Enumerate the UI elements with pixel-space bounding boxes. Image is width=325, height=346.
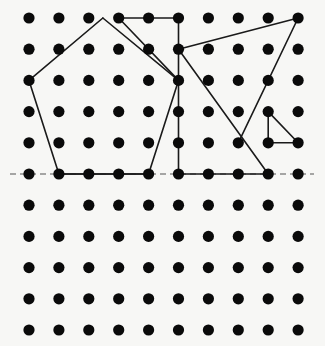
grid-dot	[23, 324, 34, 335]
grid-dot	[83, 106, 94, 117]
grid-dot	[113, 106, 124, 117]
grid-dot	[83, 262, 94, 273]
grid-dot	[203, 293, 214, 304]
grid-dot	[263, 75, 274, 86]
small-right-triangle-segment	[268, 112, 298, 143]
grid-dot	[293, 231, 304, 242]
grid-dot	[233, 75, 244, 86]
grid-dot	[293, 293, 304, 304]
grid-dot	[293, 137, 304, 148]
grid-dot	[113, 168, 124, 179]
grid-dot	[293, 262, 304, 273]
grid-dot	[53, 262, 64, 273]
grid-dot	[53, 200, 64, 211]
grid-dot	[263, 168, 274, 179]
grid-dot	[83, 231, 94, 242]
grid-dot	[263, 12, 274, 23]
grid-dot	[143, 324, 154, 335]
grid-dot	[23, 44, 34, 55]
grid-dot	[203, 200, 214, 211]
grid-dot	[83, 75, 94, 86]
grid-dot	[173, 137, 184, 148]
grid-dot	[83, 12, 94, 23]
grid-dot	[143, 200, 154, 211]
grid-dot	[143, 44, 154, 55]
dot-grid-diagram	[0, 0, 325, 346]
grid-dot	[233, 324, 244, 335]
grid-dot	[23, 231, 34, 242]
grid-dot	[263, 44, 274, 55]
grid-dot	[113, 44, 124, 55]
grid-dot	[233, 200, 244, 211]
grid-dot	[203, 262, 214, 273]
grid-dot	[293, 200, 304, 211]
grid-dot	[263, 293, 274, 304]
grid-dot	[143, 168, 154, 179]
grid-dot	[53, 137, 64, 148]
grid-dot	[173, 200, 184, 211]
grid-dot	[143, 106, 154, 117]
grid-dot	[143, 293, 154, 304]
grid-dot	[113, 137, 124, 148]
grid-dot	[113, 262, 124, 273]
grid-dot	[263, 231, 274, 242]
grid-dot	[143, 75, 154, 86]
pentagon-segment	[149, 80, 179, 174]
grid-dot	[173, 44, 184, 55]
grid-dot	[113, 231, 124, 242]
grid-dot	[23, 168, 34, 179]
grid-dot	[23, 262, 34, 273]
grid-dot	[173, 12, 184, 23]
grid-dot	[83, 168, 94, 179]
grid-dot	[233, 12, 244, 23]
grid-dot	[203, 324, 214, 335]
shape-lines	[29, 18, 298, 174]
grid-dot	[83, 137, 94, 148]
grid-dot	[83, 44, 94, 55]
grid-dot	[293, 44, 304, 55]
grid-dot	[143, 231, 154, 242]
grid-dot	[203, 44, 214, 55]
grid-dot	[173, 293, 184, 304]
grid-dot	[53, 293, 64, 304]
grid-dot	[23, 12, 34, 23]
grid-dot	[203, 137, 214, 148]
grid-dot	[23, 293, 34, 304]
grid-dot	[203, 12, 214, 23]
grid-dot	[203, 106, 214, 117]
grid-dot	[83, 200, 94, 211]
grid-dot	[203, 231, 214, 242]
grid-dot	[263, 324, 274, 335]
grid-dot	[113, 75, 124, 86]
grid-dot	[53, 231, 64, 242]
grid-dot	[293, 12, 304, 23]
grid-dot	[293, 168, 304, 179]
grid-dot	[293, 106, 304, 117]
grid-dot	[263, 262, 274, 273]
grid-dot	[233, 44, 244, 55]
grid-dot	[53, 324, 64, 335]
grid-dot	[233, 106, 244, 117]
grid-dot	[263, 137, 274, 148]
grid-dot	[53, 44, 64, 55]
grid-dot	[113, 293, 124, 304]
grid-dot	[53, 106, 64, 117]
pentagon-segment	[29, 80, 59, 174]
grid-dot	[293, 75, 304, 86]
grid-dot	[113, 12, 124, 23]
grid-dot	[233, 231, 244, 242]
grid-dot	[83, 293, 94, 304]
grid-dot	[173, 168, 184, 179]
grid-dot	[143, 262, 154, 273]
grid-dot	[293, 324, 304, 335]
grid-dot	[23, 106, 34, 117]
grid-dot	[263, 106, 274, 117]
grid-dot	[23, 200, 34, 211]
diagonal-line-segment	[179, 49, 269, 174]
grid-dot	[173, 231, 184, 242]
grid-dot	[23, 137, 34, 148]
grid-dot	[53, 75, 64, 86]
grid-dot	[113, 324, 124, 335]
grid-dot	[173, 75, 184, 86]
grid-dot	[233, 168, 244, 179]
